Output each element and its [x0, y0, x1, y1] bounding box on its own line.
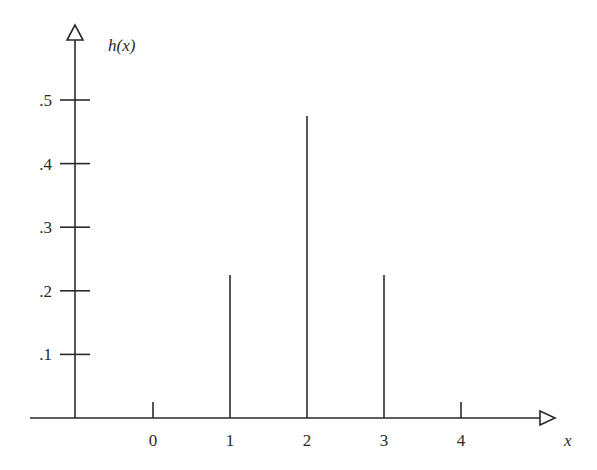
y-tick-label: .3: [39, 218, 52, 237]
x-tick-label: 3: [380, 431, 389, 450]
x-ticks: 01234: [149, 431, 466, 450]
y-tick-label: .1: [39, 345, 52, 364]
x-tick-label: 4: [457, 431, 466, 450]
y-tick-label: .5: [39, 91, 52, 110]
x-axis-label: x: [563, 431, 572, 450]
x-axis-arrow-icon: [540, 411, 555, 425]
x-tick-label: 1: [226, 431, 235, 450]
y-ticks: .1.2.3.4.5: [39, 91, 90, 364]
x-tick-label: 2: [303, 431, 312, 450]
y-tick-label: .2: [39, 282, 52, 301]
chart-canvas: .1.2.3.4.5 01234 h(x) x: [0, 0, 597, 470]
y-axis-arrow-icon: [67, 25, 83, 40]
y-tick-label: .4: [39, 155, 52, 174]
x-tick-label: 0: [149, 431, 158, 450]
stems: [153, 116, 461, 418]
y-axis-label: h(x): [108, 36, 136, 55]
